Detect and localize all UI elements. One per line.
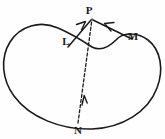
arrowhead-n-to-p xyxy=(82,96,87,106)
dashed-ray-n-to-p xyxy=(78,19,92,123)
diagram-canvas: P L M N xyxy=(0,0,165,139)
label-p: P xyxy=(86,4,93,16)
label-l: L xyxy=(62,35,69,47)
geometry-diagram: P L M N xyxy=(0,0,165,139)
label-m: M xyxy=(128,30,139,42)
label-n: N xyxy=(74,124,82,136)
